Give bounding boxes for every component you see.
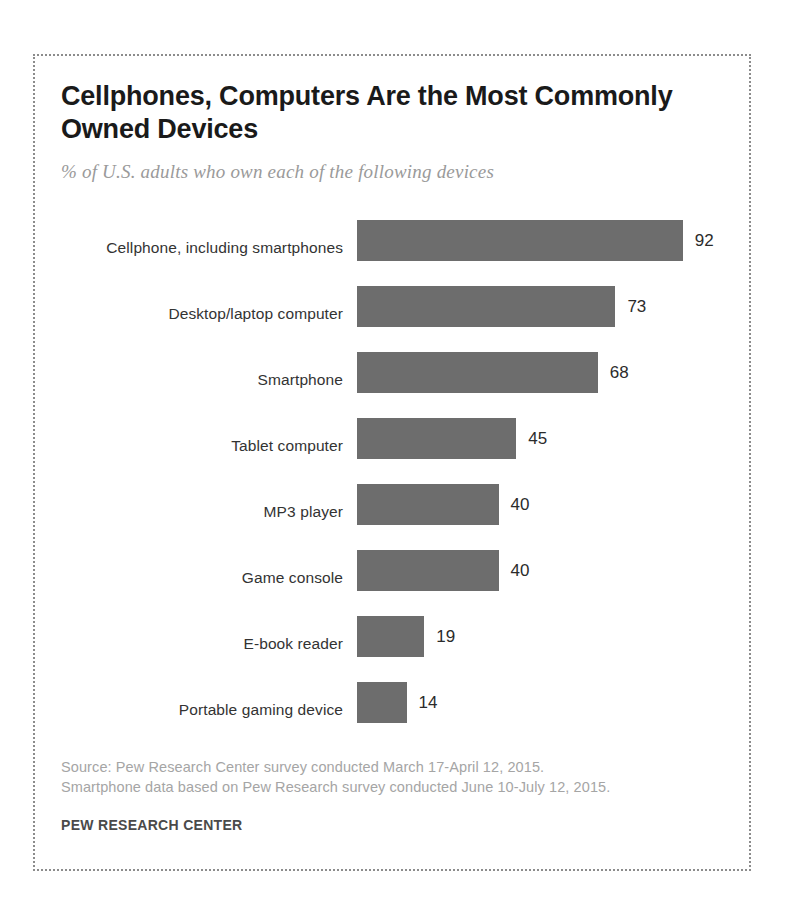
bar-row: Portable gaming device14 [61, 676, 723, 742]
figure-footer: Source: Pew Research Center survey condu… [61, 758, 723, 833]
bar-value-label: 92 [695, 220, 714, 261]
organization-label: PEW RESEARCH CENTER [61, 817, 723, 833]
category-label: Portable gaming device [61, 700, 343, 719]
bar-track: 92 [357, 214, 723, 280]
bar-track: 40 [357, 478, 723, 544]
bar-value-label: 40 [511, 550, 530, 591]
figure-inner: Cellphones, Computers Are the Most Commo… [35, 56, 749, 869]
bar-value-label: 45 [528, 418, 547, 459]
chart-figure: Cellphones, Computers Are the Most Commo… [33, 54, 751, 871]
bar-track: 14 [357, 676, 723, 742]
bar-row: Tablet computer45 [61, 412, 723, 478]
category-label: Desktop/laptop computer [61, 304, 343, 323]
bar [357, 220, 683, 261]
source-note: Source: Pew Research Center survey condu… [61, 758, 621, 797]
page-title: Cellphones, Computers Are the Most Commo… [61, 80, 701, 146]
bar-row: MP3 player40 [61, 478, 723, 544]
bar-value-label: 68 [610, 352, 629, 393]
bar-row: E-book reader19 [61, 610, 723, 676]
bar-value-label: 14 [419, 682, 438, 723]
bar [357, 418, 516, 459]
bar-track: 45 [357, 412, 723, 478]
category-label: E-book reader [61, 634, 343, 653]
bar-track: 73 [357, 280, 723, 346]
category-label: MP3 player [61, 502, 343, 521]
category-label: Game console [61, 568, 343, 587]
bar-track: 19 [357, 610, 723, 676]
bar-chart: Cellphone, including smartphones92Deskto… [61, 214, 723, 742]
bar-value-label: 73 [627, 286, 646, 327]
bar [357, 682, 407, 723]
bar-row: Desktop/laptop computer73 [61, 280, 723, 346]
bar [357, 616, 424, 657]
bar-row: Smartphone68 [61, 346, 723, 412]
bar-value-label: 40 [511, 484, 530, 525]
category-label: Cellphone, including smartphones [61, 238, 343, 257]
bar-row: Game console40 [61, 544, 723, 610]
bar-value-label: 19 [436, 616, 455, 657]
bar-track: 40 [357, 544, 723, 610]
bar [357, 286, 615, 327]
bar-row: Cellphone, including smartphones92 [61, 214, 723, 280]
category-label: Smartphone [61, 370, 343, 389]
bar [357, 352, 598, 393]
bar [357, 550, 499, 591]
chart-subtitle: % of U.S. adults who own each of the fol… [61, 160, 723, 184]
bar-track: 68 [357, 346, 723, 412]
bar [357, 484, 499, 525]
category-label: Tablet computer [61, 436, 343, 455]
